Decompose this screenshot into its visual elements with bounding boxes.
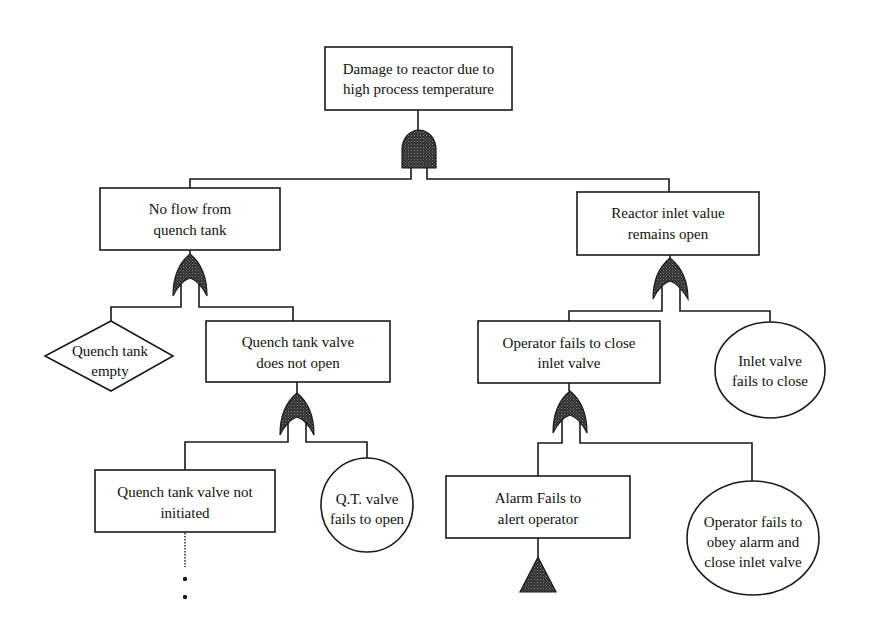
- continuation-dot: [183, 577, 187, 581]
- continuation-dot: [183, 595, 187, 599]
- event-label-line: close inlet valve: [704, 554, 802, 570]
- event-label-line: initiated: [160, 505, 210, 521]
- event-label-line: empty: [91, 363, 129, 379]
- event-label-line: Alarm Fails to: [495, 490, 582, 506]
- event-quench-tank-valve-not-initiated[interactable]: Quench tank valve not initiated: [95, 470, 275, 532]
- event-label-line: Reactor inlet value: [611, 205, 725, 221]
- event-label-line: fails to open: [330, 511, 405, 527]
- event-label-line: quench tank: [154, 222, 227, 238]
- or-gate-icon: [173, 254, 207, 296]
- event-no-flow-from-quench-tank[interactable]: No flow from quench tank: [100, 188, 280, 250]
- event-quench-tank-empty[interactable]: Quench tank empty: [45, 321, 173, 391]
- event-label-line: Operator fails to: [704, 514, 802, 530]
- event-label-line: does not open: [256, 355, 340, 371]
- or-gate-icon: [280, 393, 314, 435]
- event-label-line: Inlet valve: [738, 353, 802, 369]
- event-label-line: obey alarm and: [707, 534, 800, 550]
- event-label-line: alert operator: [498, 511, 578, 527]
- event-quench-tank-valve-does-not-open[interactable]: Quench tank valve does not open: [206, 321, 390, 382]
- and-gate-icon: [402, 130, 436, 168]
- event-label-line: Operator fails to close: [503, 335, 636, 351]
- event-label-line: Quench tank: [72, 343, 149, 359]
- event-inlet-valve-fails-to-close[interactable]: Inlet valve fails to close: [715, 322, 825, 418]
- event-top-damage-to-reactor[interactable]: Damage to reactor due to high process te…: [325, 47, 512, 110]
- event-label-line: Quench tank valve: [242, 334, 355, 350]
- or-gate-icon: [653, 258, 688, 299]
- event-alarm-fails-to-alert-operator[interactable]: Alarm Fails to alert operator: [446, 476, 630, 538]
- event-label-line: high process temperature: [343, 81, 494, 97]
- event-label-line: Damage to reactor due to: [343, 61, 495, 77]
- event-label-line: fails to close: [732, 373, 808, 389]
- event-label-line: Q.T. valve: [336, 491, 399, 507]
- event-qt-valve-fails-to-open[interactable]: Q.T. valve fails to open: [321, 458, 413, 552]
- or-gate-icon: [553, 391, 587, 433]
- event-label-line: No flow from: [149, 201, 232, 217]
- fault-tree-diagram: Damage to reactor due to high process te…: [0, 0, 872, 633]
- event-operator-fails-to-obey-alarm[interactable]: Operator fails to obey alarm and close i…: [687, 481, 819, 595]
- event-label-line: Quench tank valve not: [117, 484, 253, 500]
- event-label-line: remains open: [628, 226, 709, 242]
- event-label-line: inlet valve: [538, 355, 601, 371]
- transfer-triangle-icon: [520, 557, 556, 592]
- event-operator-fails-to-close-inlet-valve[interactable]: Operator fails to close inlet valve: [478, 321, 660, 383]
- event-reactor-inlet-remains-open[interactable]: Reactor inlet value remains open: [577, 192, 759, 255]
